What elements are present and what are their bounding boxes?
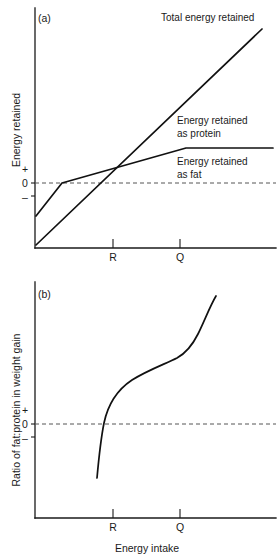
panel-a-annotation-total-energy: Total energy retained [161, 12, 254, 23]
panel-a-y-axis-title: Energy retained [10, 93, 22, 167]
panel-b-ylabel-minus: – [22, 432, 28, 444]
panel-a-xlabel-q: Q [176, 251, 184, 263]
panel-b-label: (b) [38, 288, 51, 300]
chart-panel-b: (b) Ratio of fat:protein in weight gain … [0, 280, 279, 560]
panel-b-ylabel-zero: 0 [22, 418, 28, 430]
panel-b-xlabel-r: R [109, 521, 117, 533]
panel-a-annotation-fat-line1: Energy retained [177, 156, 248, 167]
panel-b-ylabel-plus: + [22, 404, 28, 416]
panel-b-xlabel-q: Q [176, 521, 184, 533]
panel-b-y-axis-title: Ratio of fat:protein in weight gain [10, 333, 22, 486]
panel-b-x-axis-title: Energy intake [115, 542, 179, 554]
chart-panel-a: (a) Energy retained + 0 – R Q [0, 0, 279, 280]
panel-a-ylabel-minus: – [22, 191, 28, 203]
panel-a-annotation-protein-line1: Energy retained [177, 115, 248, 126]
figure-root: (a) Energy retained + 0 – R Q [0, 0, 279, 560]
panel-b-curve-fat-protein-ratio [97, 296, 216, 478]
panel-a-svg: (a) Energy retained + 0 – R Q [0, 0, 279, 280]
panel-a-curve-total-energy [36, 29, 262, 245]
panel-b-svg: (b) Ratio of fat:protein in weight gain … [0, 280, 279, 560]
panel-a-label: (a) [38, 12, 51, 24]
panel-a-annotation-fat-line2: as fat [177, 169, 202, 180]
panel-a-ylabel-zero: 0 [22, 177, 28, 189]
panel-a-ylabel-plus: + [22, 163, 28, 175]
panel-a-xlabel-r: R [109, 251, 117, 263]
panel-a-annotation-protein-line2: as protein [177, 128, 221, 139]
